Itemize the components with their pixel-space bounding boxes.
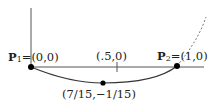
p2-label: P2=(1,0) [157,51,208,63]
curve [31,66,177,83]
midpoint-label: (.5,0) [96,51,127,63]
min-label: (7/15,−1/15) [62,89,136,101]
p2-dot [174,63,180,69]
min-dot [100,80,105,85]
p1-dot [28,64,34,70]
p1-label: P1=(0,0) [8,52,59,64]
